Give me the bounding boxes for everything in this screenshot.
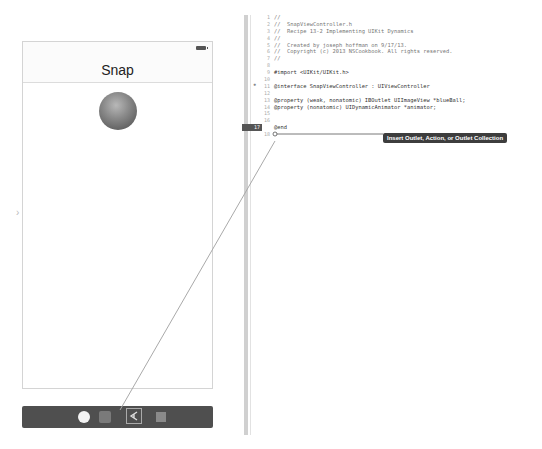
drag-connection-line	[0, 0, 542, 449]
insert-outlet-tooltip: Insert Outlet, Action, or Outlet Collect…	[383, 133, 507, 143]
